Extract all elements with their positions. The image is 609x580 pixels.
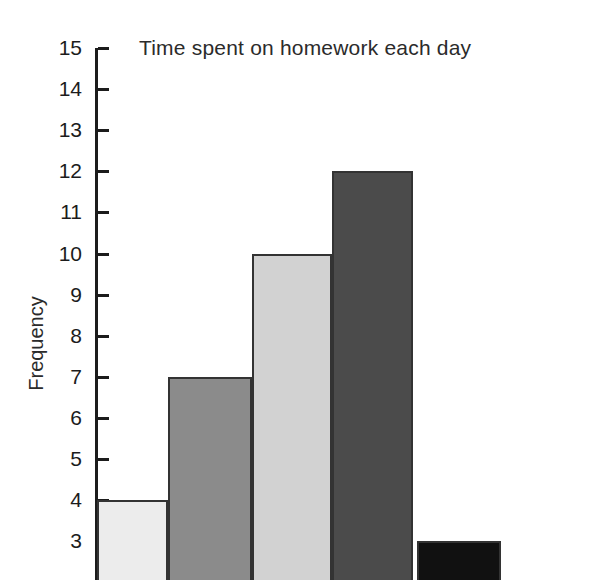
y-axis-tick-label: 3	[36, 529, 82, 553]
bar-chart: Time spent on homework each day Frequenc…	[0, 0, 609, 580]
y-axis-tick-label: 7	[36, 365, 82, 389]
y-axis-tick-label: 13	[36, 118, 82, 142]
y-axis-tick-label: 5	[36, 447, 82, 471]
bar-2	[168, 377, 252, 580]
y-axis-tick-label: 4	[36, 488, 82, 512]
y-axis-tick-label: 6	[36, 406, 82, 430]
y-axis-tick-label: 10	[36, 242, 82, 266]
y-axis-tick-label: 14	[36, 77, 82, 101]
bar-3	[252, 254, 332, 580]
y-axis-tick-label: 9	[36, 283, 82, 307]
y-axis-tick-label: 15	[36, 36, 82, 60]
plot-area	[97, 48, 609, 580]
y-axis-tick-label: 12	[36, 159, 82, 183]
bar-5	[417, 541, 501, 580]
bar-4	[332, 171, 413, 580]
bar-1	[97, 500, 168, 580]
y-axis-tick-label: 8	[36, 324, 82, 348]
y-axis-tick-label: 11	[36, 200, 82, 224]
